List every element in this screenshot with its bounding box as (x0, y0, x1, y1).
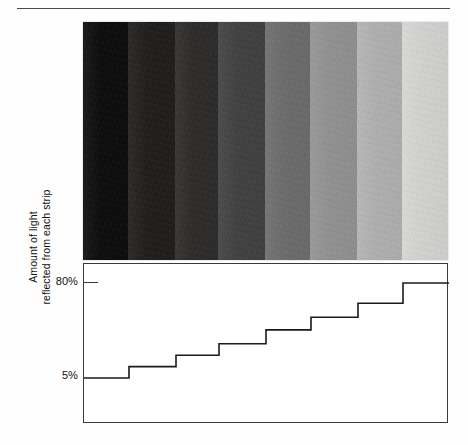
reflectance-plot-area (83, 263, 448, 423)
y-axis-title: Amount of light reflected from each stri… (27, 147, 53, 347)
figure-root: 80% 5% Amount of light reflected from ea… (0, 0, 468, 445)
grayscale-strip-8 (402, 22, 448, 260)
strip-shading-overlay (218, 22, 265, 260)
y-tick-label-5: 5% (38, 369, 78, 381)
strip-shading-overlay (83, 22, 128, 260)
step-line-path (84, 283, 449, 378)
strip-grain-texture (218, 22, 265, 260)
strip-grain-texture (175, 22, 218, 260)
strip-grain-texture (265, 22, 310, 260)
grayscale-strip-band (83, 22, 448, 260)
figure-top-rule (17, 8, 450, 9)
strip-shading-overlay (128, 22, 175, 260)
strip-grain-texture (310, 22, 357, 260)
strip-grain-texture (402, 22, 448, 260)
strip-grain-texture (128, 22, 175, 260)
strip-shading-overlay (265, 22, 310, 260)
strip-shading-overlay (357, 22, 402, 260)
grayscale-strip-4 (218, 22, 265, 260)
strip-grain-texture (357, 22, 402, 260)
grayscale-strip-1 (83, 22, 128, 260)
strip-shading-overlay (310, 22, 357, 260)
strip-shading-overlay (175, 22, 218, 260)
strip-shading-overlay (402, 22, 448, 260)
y-tick-mark-80 (84, 282, 98, 283)
grayscale-strip-5 (265, 22, 310, 260)
grayscale-strip-2 (128, 22, 175, 260)
grayscale-strip-7 (357, 22, 402, 260)
step-line-chart (84, 264, 449, 424)
grayscale-strip-3 (175, 22, 218, 260)
grayscale-strip-6 (310, 22, 357, 260)
strip-grain-texture (83, 22, 128, 260)
